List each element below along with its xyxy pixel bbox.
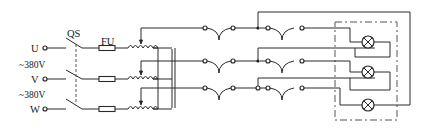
switch-to-fuse-wires [82,48,99,109]
connector-1-u-icon [203,26,235,40]
phase-v-label: V [31,74,39,85]
switch-qs-icon [66,38,82,109]
circuit-diagram: QS FU U ~380V V ~380V W [0,0,428,130]
connector-2-v-icon [266,59,304,73]
fuse-w-icon [99,107,115,112]
fuse-v-icon [99,77,115,82]
voltage-uv-label: ~380V [19,60,45,70]
voltage-vw-label: ~380V [19,90,45,100]
lamp-wires [304,28,410,105]
terminal-u-icon [43,46,47,50]
terminal-v-icon [43,77,47,81]
lamp-2-icon [362,66,374,78]
common-neutral-bus [153,48,175,109]
phase-w-label: W [30,104,40,115]
terminal-w-icon [43,107,47,111]
autotransformer-u-icon [128,30,158,48]
autotransformer-w-icon [128,89,158,109]
connector-1-w-icon [203,86,235,100]
switch-label: QS [67,28,81,39]
lamp-3-icon [362,99,374,111]
middle-wires [235,12,410,105]
phase-u-label: U [31,43,39,54]
input-wires [47,48,66,109]
connector-2-w-icon [266,86,304,100]
fuse-to-transformer-wires [115,48,128,109]
autotransformer-v-icon [128,62,158,79]
connector-1-v-icon [203,59,235,73]
connector-2-u-icon [266,26,304,40]
fuse-u-icon [99,46,115,51]
lamp-1-icon [362,36,374,48]
